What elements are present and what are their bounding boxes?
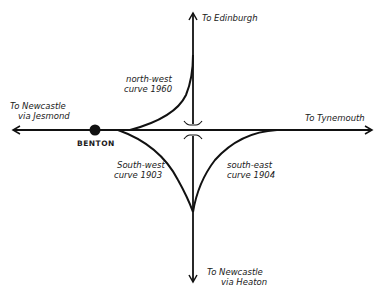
label-to-tynemouth: To Tynemouth	[305, 113, 365, 123]
label-line: via Heaton	[207, 277, 267, 287]
label-line: To Newcastle	[10, 101, 70, 111]
label-south-east-curve: south-east curve 1904	[227, 160, 275, 180]
label-line: south-east	[227, 160, 275, 170]
label-to-edinburgh: To Edinburgh	[202, 13, 258, 23]
label-line: via Jesmond	[10, 111, 70, 121]
label-line: To Newcastle	[207, 267, 267, 277]
label-line: north-west	[124, 74, 172, 84]
label-south-west-curve: South-west curve 1903	[114, 160, 165, 180]
label-to-newcastle-jesmond: To Newcastle via Jesmond	[10, 101, 70, 121]
junction-diagram	[0, 0, 382, 299]
label-line: curve 1903	[114, 170, 165, 180]
label-line: curve 1904	[227, 170, 275, 180]
label-to-newcastle-heaton: To Newcastle via Heaton	[207, 267, 267, 287]
label-north-west-curve: north-west curve 1960	[124, 74, 172, 94]
label-line: curve 1960	[124, 84, 172, 94]
label-benton-station: BENTON	[77, 139, 115, 149]
label-line: South-west	[114, 160, 165, 170]
benton-station-dot	[90, 125, 101, 136]
